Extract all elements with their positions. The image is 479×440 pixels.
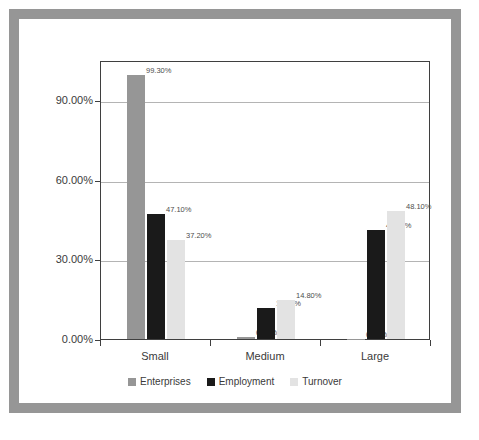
bar-value-label: 47.10% <box>166 206 191 214</box>
y-axis-tick-label: 60.00% <box>23 175 93 186</box>
y-axis-tick-label: 0.00% <box>23 334 93 345</box>
x-axis-tick-mark <box>430 340 431 346</box>
x-axis-tick-mark <box>320 340 321 346</box>
legend-item-employment[interactable]: Employment <box>207 377 275 387</box>
legend-swatch-icon <box>290 378 298 386</box>
figure-frame-inner: 0.00%30.00%60.00%90.00% 99.30%47.10%37.2… <box>19 19 451 403</box>
plot-area: 99.30%47.10%37.20%0.60%11.70%14.80%0.10%… <box>100 61 430 340</box>
bar-employment-medium[interactable] <box>257 308 275 339</box>
bar-turnover-medium[interactable] <box>277 300 295 339</box>
gridline-6000 <box>101 182 429 183</box>
bar-turnover-large[interactable] <box>387 211 405 339</box>
legend-label: Employment <box>219 377 275 387</box>
bar-employment-small[interactable] <box>147 214 165 339</box>
bar-enterprises-medium[interactable] <box>237 337 255 339</box>
legend-label: Turnover <box>302 377 342 387</box>
y-axis-tick-mark <box>95 260 101 261</box>
bar-employment-large[interactable] <box>367 230 385 339</box>
bar-chart: 0.00%30.00%60.00%90.00% 99.30%47.10%37.2… <box>19 19 451 403</box>
x-axis-category-label-small: Small <box>115 350 195 362</box>
bar-value-label: 14.80% <box>296 292 321 300</box>
figure-frame-border: 0.00%30.00%60.00%90.00% 99.30%47.10%37.2… <box>9 9 461 413</box>
legend-label: Enterprises <box>140 377 191 387</box>
y-axis-tick-label: 30.00% <box>23 254 93 265</box>
y-axis-tick-mark <box>95 340 101 341</box>
legend-item-enterprises[interactable]: Enterprises <box>128 377 191 387</box>
y-axis-tick-label: 90.00% <box>23 95 93 106</box>
bar-value-label: 48.10% <box>406 203 431 211</box>
gridline-9000 <box>101 102 429 103</box>
x-axis-category-label-large: Large <box>335 350 415 362</box>
legend-item-turnover[interactable]: Turnover <box>290 377 342 387</box>
x-axis-category-label-medium: Medium <box>225 350 305 362</box>
bar-enterprises-small[interactable] <box>127 75 145 339</box>
y-axis: 0.00%30.00%60.00%90.00% <box>19 61 93 340</box>
bar-value-label: 99.30% <box>146 67 171 75</box>
legend-swatch-icon <box>128 378 136 386</box>
y-axis-tick-mark <box>95 101 101 102</box>
chart-legend: EnterprisesEmploymentTurnover <box>19 377 451 387</box>
bar-turnover-small[interactable] <box>167 240 185 339</box>
figure-container: 0.00%30.00%60.00%90.00% 99.30%47.10%37.2… <box>0 0 479 440</box>
x-axis-tick-mark <box>210 340 211 346</box>
bar-value-label: 37.20% <box>186 232 211 240</box>
y-axis-tick-mark <box>95 181 101 182</box>
legend-swatch-icon <box>207 378 215 386</box>
